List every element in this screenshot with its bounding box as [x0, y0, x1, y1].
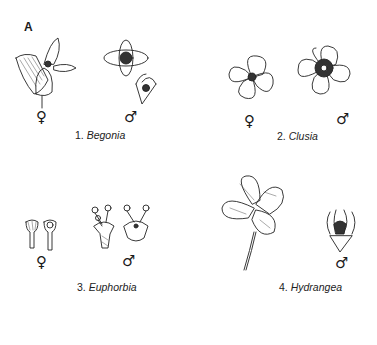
taxon-label-euphorbia: 3. Euphorbia — [77, 281, 137, 293]
clusia-male-flower-drawing — [296, 44, 352, 96]
female-symbol: ♀ — [36, 110, 47, 125]
panel-letter: A — [24, 20, 33, 34]
taxon-label-begonia: 1. Begonia — [75, 129, 125, 141]
euphorbia-female-flowers-drawing — [24, 218, 60, 252]
male-symbol: ♂ — [124, 110, 137, 125]
hydrangea-male-flower-drawing — [322, 208, 358, 256]
euphorbia-male-flowers-drawing — [90, 204, 152, 250]
clusia-female-flower-drawing — [227, 52, 277, 102]
female-symbol: ♀ — [244, 114, 255, 129]
male-symbol: ♂ — [122, 254, 135, 269]
begonia-male-flowers-drawing — [100, 38, 162, 106]
taxon-label-hydrangea: 4. Hydrangea — [279, 281, 342, 293]
female-symbol: ♀ — [36, 255, 47, 270]
male-symbol: ♂ — [335, 256, 348, 271]
begonia-female-flower-drawing — [14, 36, 78, 108]
hydrangea-sterile-flower-drawing — [220, 174, 290, 272]
taxon-label-clusia: 2. Clusia — [277, 130, 318, 142]
male-symbol: ♂ — [336, 112, 349, 127]
